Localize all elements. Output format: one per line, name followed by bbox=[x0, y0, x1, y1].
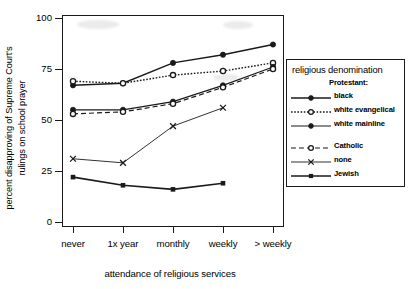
open-circle-marker bbox=[220, 68, 225, 73]
open-circle-marker bbox=[220, 85, 225, 90]
chart-root: percent disapproving of Supreme Court's … bbox=[0, 0, 410, 289]
legend-item-Jewish[interactable]: Jewish bbox=[287, 168, 406, 180]
open-circle-marker bbox=[120, 109, 125, 114]
open-circle-marker bbox=[70, 111, 75, 116]
filled-circle-marker bbox=[309, 124, 314, 129]
filled-square-marker bbox=[71, 175, 76, 180]
legend-item-white-mainline[interactable]: white mainline bbox=[287, 118, 406, 130]
filled-square-marker bbox=[121, 183, 126, 188]
legend-item-label: Jewish bbox=[334, 169, 359, 178]
legend-item-Catholic[interactable]: Catholic bbox=[287, 140, 406, 152]
filled-circle-marker bbox=[220, 52, 225, 57]
filled-square-marker bbox=[171, 187, 176, 192]
legend-key-swatch bbox=[291, 90, 331, 102]
open-circle-marker bbox=[270, 66, 275, 71]
open-circle-marker bbox=[120, 81, 125, 86]
open-circle-marker bbox=[309, 146, 314, 151]
legend-key-swatch bbox=[291, 154, 331, 166]
legend-box: religious denomination Protestant: black… bbox=[286, 59, 405, 187]
filled-circle-marker bbox=[309, 96, 314, 101]
legend-item-label: white mainline bbox=[334, 119, 385, 128]
open-circle-marker bbox=[70, 79, 75, 84]
legend-key-swatch bbox=[291, 104, 331, 116]
legend-key-swatch bbox=[291, 168, 331, 180]
filled-circle-marker bbox=[270, 42, 275, 47]
filled-circle-marker bbox=[170, 60, 175, 65]
legend-item-none[interactable]: none bbox=[287, 154, 406, 166]
filled-square-marker bbox=[221, 181, 226, 186]
open-circle-marker bbox=[170, 101, 175, 106]
x-axis-title: attendance of religious services bbox=[55, 268, 285, 279]
legend-title: religious denomination bbox=[292, 64, 383, 75]
series-line-Jewish bbox=[73, 177, 223, 189]
legend-item-label: none bbox=[334, 155, 352, 164]
legend-item-label: Catholic bbox=[334, 141, 363, 150]
legend-item-white-evangelical[interactable]: white evangelical bbox=[287, 104, 406, 116]
legend-key-swatch bbox=[291, 140, 331, 152]
open-circle-marker bbox=[170, 73, 175, 78]
legend-key-swatch bbox=[291, 118, 331, 130]
series-line-none bbox=[73, 108, 223, 163]
cross-marker bbox=[170, 123, 176, 129]
legend-item-label: white evangelical bbox=[334, 105, 395, 114]
legend-item-label: black bbox=[334, 91, 353, 100]
legend-item-black[interactable]: black bbox=[287, 90, 406, 102]
filled-square-marker bbox=[309, 174, 313, 178]
open-circle-marker bbox=[309, 110, 314, 115]
cross-marker bbox=[220, 105, 226, 111]
legend-subheading: Protestant: bbox=[329, 78, 368, 87]
